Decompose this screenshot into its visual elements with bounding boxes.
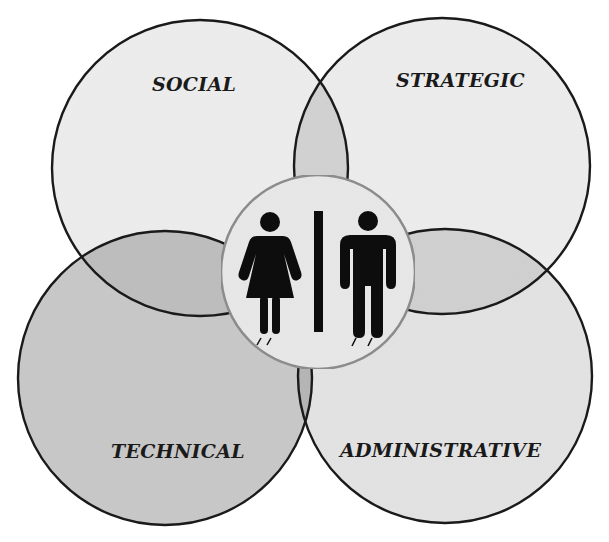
venn-diagram: SOCIAL STRATEGIC TECHNICAL ADMINISTRATIV… <box>0 0 609 542</box>
label-technical: TECHNICAL <box>111 440 245 462</box>
label-administrative: ADMINISTRATIVE <box>338 439 541 461</box>
label-strategic: STRATEGIC <box>396 69 525 91</box>
label-social: SOCIAL <box>152 73 236 95</box>
divider-bar <box>314 211 323 332</box>
